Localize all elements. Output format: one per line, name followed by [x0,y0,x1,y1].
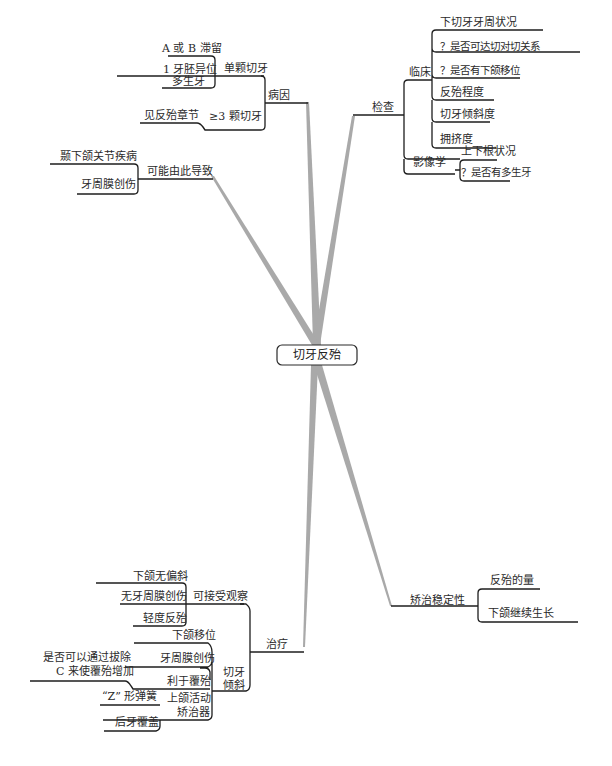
single-incisor-label: 单颗切牙 [224,62,268,75]
root-label: 切牙反殆 [293,348,341,362]
imaging-item-2: ？是否有多生牙 [461,166,531,178]
appliance-item-1: “Z” 形弹簧 [102,689,157,703]
mind-map: 切牙反殆 病因 单颗切牙 A 或 B 滞留 1 牙胚异位 多生牙 ≥3 颗切牙 … [0,0,612,766]
exam-label: 检查 [372,100,394,114]
trunk-to-stability [314,365,392,606]
clinical-item-1: 下切牙牙周状况 [440,15,517,29]
cause-label: 病因 [268,88,290,102]
branch-cause[interactable]: 病因 单颗切牙 A 或 B 滞留 1 牙胚异位 多生牙 ≥3 颗切牙 见反殆章节 [117,42,308,130]
clinical-label: 临床 [409,65,431,79]
trunk-connectors [211,102,392,647]
trunk-to-treatment [303,365,318,647]
tilt-label-line1: 切牙 [223,666,245,679]
trunk-to-cause [306,102,321,345]
consequence-label: 可能由此导致 [147,164,213,178]
root-node[interactable]: 切牙反殆 [277,345,357,365]
appliance-label-line1: 上颌活动 [167,691,211,705]
clinical-item-5: 切牙倾斜度 [440,107,495,121]
multi-incisor-underline [140,123,261,130]
clinical-item-3: ？是否有下颌移位 [440,64,521,76]
extract-note-line1: 是否可以通过拔除 [43,650,131,664]
observe-item-3: 轻度反殆 [143,611,187,625]
tilt-item-1: 下颌移位 [172,628,216,642]
branch-exam[interactable]: 检查 临床 下切牙牙周状况 ？是否可达切对切关系 ？是否有下颌移位 反殆程度 切… [353,15,580,181]
branch-consequence[interactable]: 可能由此导致 颞下颌关节疾病 牙周膜创伤 [50,149,213,194]
appliance-label-line2: 矫治器 [177,705,210,719]
observe-label: 可接受观察 [193,589,248,603]
observe-item-2: 无牙周膜创伤 [121,590,187,603]
consequence-item-2: 牙周膜创伤 [81,178,136,191]
tilt-label-line2: 倾斜 [223,679,245,692]
tilt-item-2: 牙周膜创伤 [160,652,215,665]
trunk-to-consequence [211,176,320,345]
tilt-item-3: 利于覆殆 [167,674,211,688]
branch-stability[interactable]: 矫治稳定性 反殆的量 下颌继续生长 [391,573,578,622]
appliance-item-2: 后牙覆盖 [115,715,159,729]
cause-item-4: 见反殆章节 [144,108,199,122]
treatment-label: 治疗 [266,637,288,651]
clinical-item-2: ？是否可达切对切关系 [440,40,540,52]
stability-label: 矫治稳定性 [410,593,465,607]
branch-treatment[interactable]: 治疗 可接受观察 下颌无偏斜 无牙周膜创伤 轻度反殆 切牙 倾斜 下颌移位 牙周… [30,569,304,731]
cause-item-2: 1 牙胚异位 [163,62,218,76]
observe-item-1: 下颌无偏斜 [133,569,188,583]
cause-item-1: A 或 B 滞留 [161,42,222,55]
extract-note-line2: C 来使覆殆增加 [56,664,134,678]
consequence-item-1: 颞下颌关节疾病 [60,149,137,163]
cause-item-3: 多生牙 [172,74,205,88]
stability-item-1: 反殆的量 [490,573,534,587]
multi-incisor-label: ≥3 颗切牙 [209,110,262,123]
stability-item-2: 下颌继续生长 [488,606,554,620]
clinical-item-6: 拥挤度 [440,132,473,146]
clinical-item-4: 反殆程度 [440,85,484,99]
imaging-label: 影像学 [413,155,446,169]
imaging-item-1: 上下根状况 [461,144,516,158]
trunk-to-exam [313,116,355,345]
